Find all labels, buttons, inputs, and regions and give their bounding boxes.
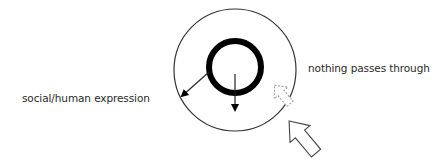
- inner-to-outer-arrow: [182, 72, 209, 96]
- small-block-arrow: [268, 80, 297, 110]
- outer-circle: [174, 9, 296, 131]
- diagram-canvas: [0, 0, 448, 165]
- nothing-passes-through-label: nothing passes through: [308, 62, 430, 74]
- social-human-expression-label: social/human expression: [22, 92, 150, 104]
- large-block-arrow: [279, 113, 326, 162]
